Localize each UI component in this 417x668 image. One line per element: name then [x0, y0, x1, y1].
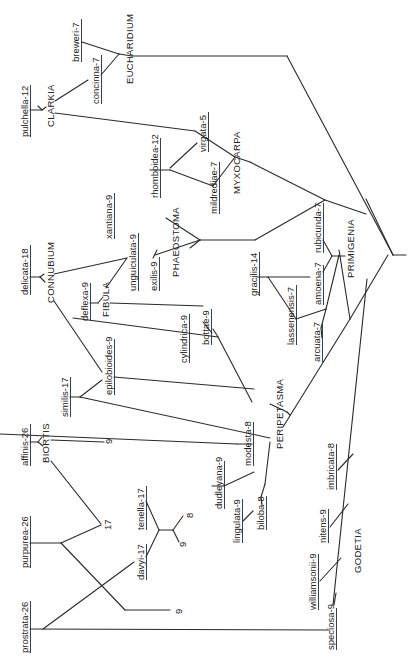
svg-text:xantiana-9: xantiana-9 — [103, 195, 114, 239]
section-primigenia: PRIMIGENIA — [345, 219, 356, 278]
species-tenella: tenella-17 — [135, 486, 147, 530]
species-rubicunda: rubicunda-7 — [312, 203, 324, 253]
species-amoena: amoena-7 — [312, 262, 324, 305]
species-pulchella: pulchella-12 — [19, 85, 31, 137]
species-lingulata: lingulata-9 — [231, 499, 243, 543]
svg-text:unguiculata-9: unguiculata-9 — [127, 234, 138, 291]
species-exilis: exilis-9 — [148, 257, 160, 291]
species-imbricata: imbricata-8 — [325, 443, 337, 490]
species-xantiana: xantiana-9 — [103, 193, 115, 239]
svg-text:gracilis-14: gracilis-14 — [248, 253, 259, 296]
number-8: 8 — [184, 513, 195, 518]
svg-text:virgata-5: virgata-5 — [197, 115, 208, 152]
svg-text:exilis-9: exilis-9 — [148, 261, 159, 291]
section-biortis: BIORTIS — [40, 423, 51, 463]
section-phaeostoma: PHAEOSTOMA — [170, 207, 181, 277]
species-rhomboidea: rhomboidea-12 — [149, 134, 161, 198]
svg-text:rubicunda-7: rubicunda-7 — [312, 203, 323, 253]
svg-text:modesta-8: modesta-8 — [242, 421, 253, 466]
svg-text:biloba-8: biloba-8 — [255, 496, 266, 530]
section-peripetasma: PERIPETASMA — [274, 378, 285, 449]
svg-text:concinna-7: concinna-7 — [90, 58, 101, 104]
svg-text:tenella-17: tenella-17 — [135, 488, 146, 530]
number-9-bottom: 9 — [173, 609, 184, 614]
svg-text:arcuata-7: arcuata-7 — [311, 322, 322, 362]
section-eucharidium: EUCHARIDIUM — [124, 14, 135, 84]
species-cylindrica: cylindrica-9 — [178, 314, 190, 363]
svg-text:dudleyana-9: dudleyana-9 — [213, 457, 224, 509]
svg-text:similis-17: similis-17 — [59, 377, 70, 417]
svg-text:pulchella-12: pulchella-12 — [19, 86, 30, 137]
species-purpurea: purpurea-26 — [19, 516, 31, 568]
number-9-small: 9 — [177, 542, 188, 547]
svg-text:bottae-9: bottae-9 — [200, 310, 211, 345]
species-davyi: davyi-17 — [135, 544, 147, 580]
species-affinis: affinis-26 — [19, 424, 31, 466]
species-dudleyana: dudleyana-9 — [213, 457, 225, 509]
species-mildrediae: mildrediae-7 — [208, 162, 220, 214]
section-clarkia: CLARKIA — [45, 84, 56, 127]
phylogenetic-diagram: breweri-7 concinna-7 pulchella-12 virgat… — [0, 0, 417, 668]
species-arcuata: arcuata-7 — [311, 322, 323, 362]
svg-text:rhomboidea-12: rhomboidea-12 — [149, 134, 160, 198]
svg-text:lassenensis-7: lassenensis-7 — [285, 287, 296, 345]
svg-text:purpurea-26: purpurea-26 — [19, 516, 30, 568]
species-bottae: bottae-9 — [200, 309, 212, 345]
species-delicata: delicata-18 — [19, 245, 31, 295]
section-myxocarpa: MYXOCARPA — [231, 131, 242, 194]
species-concinna: concinna-7 — [90, 55, 102, 104]
svg-text:mildrediae-7: mildrediae-7 — [208, 162, 219, 214]
svg-text:nitens-9: nitens-9 — [317, 509, 328, 543]
svg-text:amoena-7: amoena-7 — [312, 262, 323, 305]
section-fibula: FIBULA — [100, 282, 111, 317]
number-biortis-9: 9 — [103, 439, 114, 444]
section-godetia: GODETIA — [352, 528, 363, 573]
species-modesta: modesta-8 — [242, 421, 254, 466]
number-17: 17 — [102, 519, 113, 530]
species-prostrata: prostrata-26 — [19, 601, 31, 653]
species-nitens: nitens-9 — [317, 509, 329, 543]
species-unguiculata: unguiculata-9 — [127, 233, 139, 291]
svg-text:speciosa-9: speciosa-9 — [325, 604, 336, 650]
species-williamsonii: williamsonii-9 — [307, 554, 319, 612]
species-virgata: virgata-5 — [197, 112, 209, 152]
svg-text:prostrata-26: prostrata-26 — [19, 602, 30, 653]
species-speciosa: speciosa-9 — [325, 604, 337, 650]
species-epilobioides: epilobioides-9 — [103, 336, 115, 395]
species-gracilis: gracilis-14 — [248, 252, 260, 296]
species-similis: similis-17 — [59, 377, 71, 417]
svg-text:breweri-7: breweri-7 — [70, 22, 81, 62]
hypothetical-numbers: 9 17 8 9 9 — [102, 439, 195, 614]
section-connubium: CONNUBIUM — [45, 242, 56, 303]
species-deflexa: deflexa-9 — [79, 282, 91, 321]
species-biloba: biloba-8 — [255, 496, 267, 530]
svg-text:cylindrica-9: cylindrica-9 — [178, 315, 189, 363]
svg-text:affinis-26: affinis-26 — [19, 428, 30, 466]
species-lassenensis: lassenensis-7 — [285, 285, 297, 345]
svg-text:davyi-17: davyi-17 — [135, 544, 146, 580]
svg-text:imbricata-8: imbricata-8 — [325, 443, 336, 490]
svg-text:lingulata-9: lingulata-9 — [231, 499, 242, 543]
svg-text:deflexa-9: deflexa-9 — [79, 282, 90, 321]
svg-text:epilobioides-9: epilobioides-9 — [103, 336, 114, 395]
species-breweri: breweri-7 — [70, 19, 82, 62]
svg-text:delicata-18: delicata-18 — [19, 249, 30, 295]
svg-text:williamsonii-9: williamsonii-9 — [307, 554, 318, 612]
